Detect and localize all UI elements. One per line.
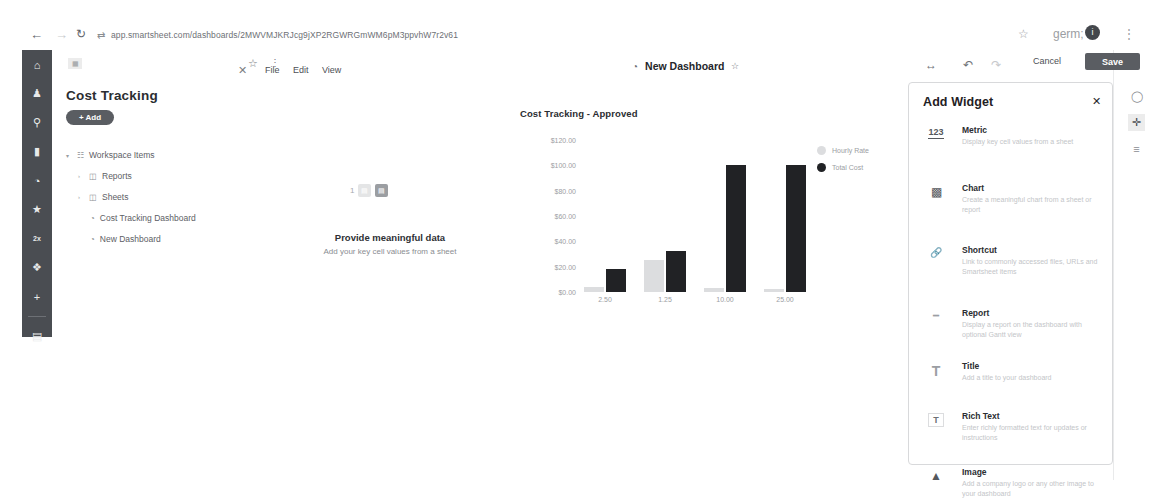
add-widget-item-name: Image (962, 467, 1102, 477)
grid-icon[interactable]: ▦ (68, 58, 82, 69)
rail-item-solutions[interactable]: ❖ (22, 253, 52, 282)
report-icon: ━ (921, 308, 951, 340)
rail-item-workapps[interactable]: 2x (22, 224, 52, 253)
address-bar[interactable]: ⇄ app.smartsheet.com/dashboards/2MWVMJKR… (97, 26, 458, 44)
bar-chart-icon: ▩ (921, 183, 951, 215)
add-widget-item-image[interactable]: ▲ImageAdd a company logo or any other im… (909, 467, 1114, 499)
metric-widget[interactable]: 1 ▤ ▤ Provide meaningful data Add your k… (285, 182, 495, 272)
menu-view[interactable]: View (322, 65, 341, 75)
menu-edit[interactable]: Edit (293, 65, 309, 75)
chart-x-tick: 25.00 (760, 296, 810, 303)
chart-legend-item: Total Cost (817, 163, 869, 172)
add-widget-title: Add Widget (923, 95, 993, 109)
workspace-tab-row: ▦ ☆ ⋮ (52, 50, 282, 78)
rail-item-notifications[interactable]: ♟ (22, 79, 52, 108)
dashboard-icon: ◔ (90, 235, 95, 244)
cancel-button[interactable]: Cancel (1033, 56, 1061, 66)
chart-title: Cost Tracking - Approved (520, 108, 880, 119)
tree-item-sheets[interactable]: › ◫ Sheets (78, 192, 128, 202)
chart-bar (584, 287, 604, 292)
dashboard-clock-icon: ◔ (632, 61, 638, 72)
chart-legend-item: Hourly Rate (817, 146, 869, 155)
menu-file[interactable]: File (265, 65, 280, 75)
star-icon[interactable]: ☆ (1018, 27, 1029, 41)
add-button[interactable]: + Add (66, 110, 114, 125)
title-text-icon: T (921, 361, 951, 383)
avatar[interactable]: i (1085, 25, 1100, 40)
chart-bar (786, 165, 806, 292)
chevron-down-icon[interactable]: ▾ (66, 152, 72, 159)
add-widget-item-rich-text[interactable]: TRich TextEnter richly formatted text fo… (909, 411, 1114, 443)
back-arrow-icon[interactable]: ← (30, 28, 43, 41)
rail-item-account[interactable]: ▤ (22, 322, 52, 351)
chart-bar (726, 165, 746, 292)
chevron-right-icon[interactable]: › (78, 194, 84, 200)
chart-y-tick: $20.00 (516, 263, 576, 270)
star-icon[interactable]: ☆ (731, 61, 739, 71)
chart-y-tick: $0.00 (516, 289, 576, 296)
chart-bar (644, 260, 664, 292)
metric-subtext: Add your key cell values from a sheet (285, 247, 495, 256)
resize-horizontal-icon[interactable]: ↔ (925, 58, 937, 72)
chart-x-tick: 1.25 (640, 296, 690, 303)
rail-item-recents[interactable]: ◔ (22, 166, 52, 195)
legend-label: Hourly Rate (832, 147, 869, 154)
rich-text-icon: T (921, 411, 951, 443)
forward-arrow-icon: → (55, 28, 68, 41)
tree-item-new-dashboard[interactable]: ◔ New Dashboard (90, 234, 161, 244)
metric-counter: 1 (350, 186, 354, 195)
rail-item-home[interactable]: ⌂ (22, 50, 52, 79)
add-widget-item-desc: Add a title to your dashboard (962, 373, 1102, 383)
rail-item-search[interactable]: ⚲ (22, 108, 52, 137)
chart-x-tick: 10.00 (700, 296, 750, 303)
add-widget-item-desc: Display a report on the dashboard with o… (962, 320, 1102, 340)
chart-legend: Hourly RateTotal Cost (817, 146, 869, 180)
tree-item-cost-tracking-dashboard[interactable]: ◔ Cost Tracking Dashboard (90, 213, 196, 223)
browser-toolbar: ← → ↻ ⇄ app.smartsheet.com/dashboards/2M… (0, 0, 1159, 46)
site-info-icon[interactable]: ⇄ (97, 30, 104, 41)
dashboard-title: New Dashboard (645, 60, 724, 72)
add-widget-item-report[interactable]: ━ReportDisplay a report on the dashboard… (909, 308, 1114, 340)
add-widget-item-name: Chart (962, 183, 1102, 193)
add-widget-item-metric[interactable]: 123MetricDisplay key cell values from a … (909, 125, 1114, 147)
extensions-icon[interactable]: germ; (1053, 27, 1084, 41)
comment-icon[interactable]: ◯ (1128, 88, 1145, 105)
tree-item-workspace-items[interactable]: ▾ ☷ Workspace Items (66, 150, 155, 160)
chevron-right-icon[interactable]: › (78, 173, 84, 179)
chart-y-tick: $100.00 (516, 162, 576, 169)
save-button[interactable]: Save (1085, 53, 1140, 70)
add-widget-item-desc: Create a meaningful chart from a sheet o… (962, 195, 1102, 215)
undo-icon[interactable]: ↶ (963, 58, 973, 72)
rail-item-browse[interactable]: ▮ (22, 137, 52, 166)
add-widget-item-name: Metric (962, 125, 1102, 135)
chart-bar-group (580, 140, 630, 292)
star-icon[interactable]: ☆ (248, 57, 258, 70)
chart-bar (764, 289, 784, 292)
legend-label: Total Cost (832, 164, 863, 171)
add-widget-item-name: Report (962, 308, 1102, 318)
chart-bar (666, 251, 686, 292)
settings-sliders-icon[interactable]: ≡ (1128, 140, 1145, 157)
rail-item-favorites[interactable]: ★ (22, 195, 52, 224)
add-widget-item-chart[interactable]: ▩ChartCreate a meaningful chart from a s… (909, 183, 1114, 215)
add-widget-item-desc: Display key cell values from a sheet (962, 137, 1102, 147)
legend-color-dot (817, 163, 826, 172)
chart-y-tick: $120.00 (516, 137, 576, 144)
dashboard-icon: ◔ (90, 214, 95, 223)
close-icon[interactable]: ✕ (238, 64, 247, 77)
rail-item-create[interactable]: + (22, 282, 52, 311)
chart-widget[interactable]: Cost Tracking - Approved $120.00$100.00$… (520, 108, 880, 308)
reload-icon[interactable]: ↻ (76, 28, 86, 40)
plus-icon[interactable]: ✛ (1128, 114, 1145, 131)
kebab-menu-icon[interactable]: ⋮ (1123, 27, 1135, 41)
tree-item-reports[interactable]: › ◫ Reports (78, 171, 132, 181)
dashboard-header: ◔ New Dashboard ☆ (632, 60, 739, 72)
close-icon[interactable]: ✕ (1092, 95, 1101, 108)
add-widget-item-title[interactable]: TTitleAdd a title to your dashboard (909, 361, 1114, 383)
add-widget-panel: Add Widget ✕ 123MetricDisplay key cell v… (908, 82, 1113, 465)
rail-divider (28, 316, 46, 317)
add-widget-item-shortcut[interactable]: 🔗ShortcutLink to commonly accessed files… (909, 245, 1114, 277)
image-icon: ▲ (921, 467, 951, 499)
chart-bar-group (760, 140, 810, 292)
chart-bar (704, 288, 724, 292)
